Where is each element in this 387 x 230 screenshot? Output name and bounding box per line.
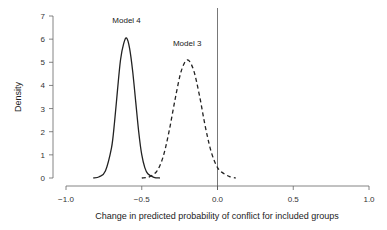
y-axis: 01234567 (41, 12, 53, 183)
x-tick-label: 0.0 (212, 195, 224, 204)
y-tick-label: 1 (41, 151, 46, 160)
x-axis-title: Change in predicted probability of confl… (95, 211, 339, 221)
series-line-model-4 (93, 38, 160, 178)
y-tick-label: 0 (41, 174, 46, 183)
y-tick-label: 7 (41, 12, 46, 21)
x-tick-label: 0.5 (288, 195, 300, 204)
y-tick-label: 6 (41, 35, 46, 44)
series-label-model-4: Model 4 (112, 16, 141, 25)
x-axis: −1.0−0.50.00.51.0 (58, 186, 375, 204)
y-tick-label: 2 (41, 128, 46, 137)
series-line-model-3 (142, 60, 236, 178)
y-tick-label: 5 (41, 58, 46, 67)
x-tick-label: −0.5 (134, 195, 150, 204)
y-tick-label: 4 (41, 81, 46, 90)
x-tick-label: −1.0 (58, 195, 74, 204)
y-tick-label: 3 (41, 105, 46, 114)
series-group (93, 38, 235, 178)
y-axis-title: Density (13, 81, 23, 112)
series-label-model-3: Model 3 (173, 39, 202, 48)
density-chart: 01234567 −1.0−0.50.00.51.0 Model 4Model … (0, 0, 387, 230)
annotations: Model 4Model 3 (112, 16, 202, 48)
x-tick-label: 1.0 (363, 195, 375, 204)
